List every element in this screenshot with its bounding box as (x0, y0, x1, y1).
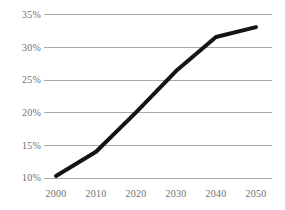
y-tick-label-10: 10% (1, 172, 41, 183)
series-line (56, 27, 256, 176)
x-tick-label-2050: 2050 (233, 188, 279, 199)
y-tick-label-25: 25% (1, 74, 41, 85)
gridline-15 (44, 145, 272, 146)
y-tick-label-30: 30% (1, 42, 41, 53)
y-tick-label-20: 20% (1, 107, 41, 118)
gridline-30 (44, 47, 272, 48)
gridline-20 (44, 112, 272, 113)
gridline-25 (44, 80, 272, 81)
plot-area: 35% 30% 25% 20% 15% 10% 2000 2010 2020 2… (0, 0, 285, 210)
y-tick-label-35: 35% (1, 9, 41, 20)
gridline-35 (44, 14, 272, 15)
y-tick-label-15: 15% (1, 140, 41, 151)
line-chart: 35% 30% 25% 20% 15% 10% 2000 2010 2020 2… (0, 0, 285, 210)
gridline-10 (44, 178, 272, 179)
